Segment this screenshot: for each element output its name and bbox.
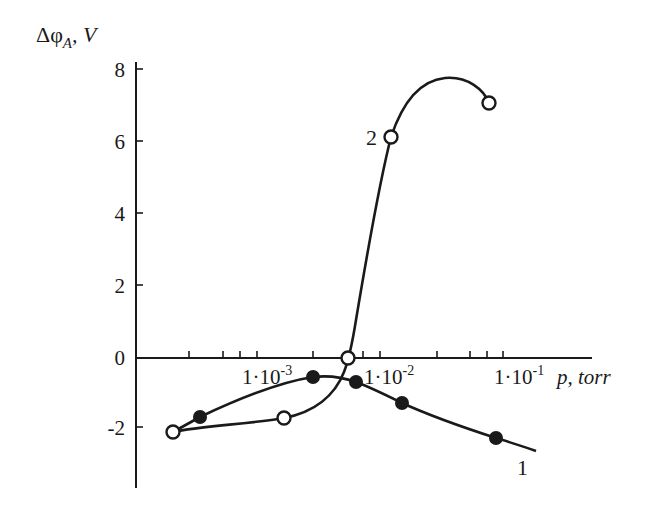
y-tick-label: 4	[115, 202, 126, 226]
series-2-markers	[167, 97, 496, 439]
data-point	[193, 410, 207, 424]
data-point	[167, 426, 180, 439]
y-tick-label: -2	[108, 416, 126, 440]
data-point	[489, 431, 503, 445]
y-tick-labels: 8 6 4 2 0 -2	[108, 58, 126, 440]
data-point	[395, 396, 409, 410]
data-point	[278, 412, 291, 425]
y-tick-label: 8	[115, 58, 126, 82]
data-point	[483, 97, 496, 110]
x-tick-label-1e-1: 1·10-1	[494, 363, 544, 389]
x-tick-label-1e-2: 1·10-2	[364, 363, 414, 389]
y-tick-label: 0	[115, 346, 126, 370]
chart: 8 6 4 2 0 -2 ΔφA, V 1·10-3 1·10-2 1·10-1…	[0, 0, 656, 509]
series-2-label: 2	[366, 125, 377, 150]
x-axis-label: p, torr	[555, 365, 612, 389]
data-point	[349, 375, 363, 389]
y-ticks	[136, 69, 143, 427]
y-tick-label: 6	[115, 130, 126, 154]
data-point	[385, 131, 398, 144]
series-2-line	[173, 78, 489, 432]
x-tick-labels: 1·10-3 1·10-2 1·10-1	[242, 363, 544, 389]
x-tick-label-1e-3: 1·10-3	[242, 363, 292, 389]
series-1-markers	[193, 370, 503, 445]
series-1-label: 1	[517, 455, 528, 480]
y-tick-label: 2	[115, 274, 126, 298]
data-point	[342, 352, 355, 365]
y-axis-label: ΔφA, V	[36, 22, 99, 51]
data-point	[306, 370, 320, 384]
